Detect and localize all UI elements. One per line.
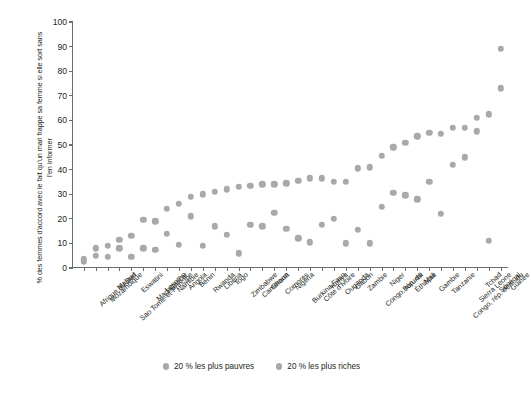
y-axis-title: % des femmes d'accord avec le fait qu'un… [35,28,54,288]
y-axis-tick-label: 40 [57,165,67,175]
data-point [283,225,289,231]
y-axis-tick-label: 20 [57,214,67,224]
data-point [331,216,337,222]
y-axis-tick-mark [69,218,73,219]
legend-marker-icon [276,363,282,369]
data-point [176,201,182,207]
data-point [355,165,361,171]
y-axis-tick-label: 90 [57,42,67,52]
data-point [390,190,396,196]
data-point [319,222,325,228]
data-point [247,182,253,188]
data-point [402,192,408,198]
data-point [247,222,253,228]
data-point [319,175,325,181]
data-point [414,133,420,139]
data-point [140,217,146,223]
data-point [390,144,396,150]
legend-item-label: 20 % les plus pauvres [174,362,254,371]
y-axis-tick-mark [69,243,73,244]
x-axis-labels: Afrique du SudMozambiqueMalawiSao Tomé-e… [72,268,508,358]
data-point [128,233,134,239]
y-axis-tick-mark [69,21,73,22]
data-point [295,235,301,241]
y-axis-tick-mark [69,169,73,170]
data-point [176,241,182,247]
data-point [235,250,241,256]
data-point [212,189,218,195]
data-point [438,131,444,137]
data-point [92,245,98,251]
data-point [414,196,420,202]
y-axis-tick-label: 70 [57,91,67,101]
data-point [497,85,503,91]
data-point [92,252,98,258]
data-point [438,211,444,217]
data-point [81,259,87,265]
x-axis-label: Nigéria [294,271,316,292]
data-point [402,139,408,145]
data-point [140,245,146,251]
data-point [307,175,313,181]
data-point [152,246,158,252]
y-axis-tick-mark [69,46,73,47]
data-point [259,181,265,187]
y-axis-tick-label: 30 [57,189,67,199]
data-point [378,203,384,209]
data-point [426,129,432,135]
data-point [474,115,480,121]
data-point [271,181,277,187]
data-point [104,243,110,249]
data-point [188,213,194,219]
legend-item[interactable]: 20 % les plus riches [276,362,360,371]
chart-legend: 20 % les plus pauvres20 % les plus riche… [0,362,523,371]
data-point [223,232,229,238]
data-point [104,254,110,260]
data-point [378,153,384,159]
data-point [152,218,158,224]
data-point [295,177,301,183]
data-point [212,223,218,229]
data-point [486,238,492,244]
y-axis-tick-mark [69,194,73,195]
y-axis-tick-label: 80 [57,66,67,76]
y-axis-tick-label: 60 [57,115,67,125]
data-point [223,186,229,192]
data-point [366,240,372,246]
data-point [200,191,206,197]
y-axis-tick-label: 50 [57,140,67,150]
data-point [188,193,194,199]
data-point [283,180,289,186]
data-point [259,223,265,229]
data-point [462,154,468,160]
data-point [164,230,170,236]
data-point [343,179,349,185]
data-point [235,184,241,190]
y-axis-tick-label: 10 [57,238,67,248]
y-axis-tick-label: 100 [53,17,67,27]
data-point [116,245,122,251]
data-point [497,46,503,52]
data-point [474,128,480,134]
data-point [116,237,122,243]
legend-item-label: 20 % les plus riches [287,362,360,371]
y-axis-tick-mark [69,71,73,72]
data-point [128,254,134,260]
plot-area: 0102030405060708090100 [72,22,508,268]
data-point [366,164,372,170]
y-axis-tick-mark [69,144,73,145]
legend-marker-icon [163,363,169,369]
y-axis-tick-mark [69,120,73,121]
data-point [486,111,492,117]
data-point [307,239,313,245]
y-axis-tick-mark [69,95,73,96]
data-point [355,227,361,233]
data-point [450,125,456,131]
data-point [462,125,468,131]
data-point [450,161,456,167]
data-point [426,179,432,185]
data-point [271,209,277,215]
data-point [343,240,349,246]
legend-item[interactable]: 20 % les plus pauvres [163,362,254,371]
